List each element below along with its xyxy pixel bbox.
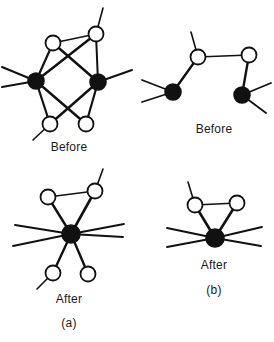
- caption-after-b: After: [201, 258, 227, 272]
- panel-after-a-node-t1-open: [41, 190, 56, 205]
- panel-before-a: [2, 8, 132, 140]
- caption-after-a: After: [56, 292, 82, 306]
- caption-before-b: Before: [196, 122, 233, 136]
- panel-before-b-node-b1-filled: [165, 84, 181, 100]
- caption-label-b: (b): [206, 283, 221, 297]
- panel-after-b-node-s2-open: [230, 196, 245, 211]
- graph-figure: BeforeBeforeAfter(a)After(b): [0, 0, 274, 342]
- graph-layer: [2, 8, 271, 289]
- panel-after-a: [13, 169, 124, 289]
- panel-before-a-node-u2-open: [89, 27, 104, 42]
- panel-before-b-node-b2-filled: [234, 87, 250, 103]
- panel-after-a-node-hub-filled: [62, 225, 80, 243]
- panel-before-a-node-u1-open: [46, 36, 61, 51]
- panel-before-a-node-d2-filled: [90, 74, 106, 90]
- panel-before-a-node-l2-open: [79, 117, 94, 132]
- panel-before-b-node-w2-open: [242, 48, 257, 63]
- panel-after-b-node-hub2-filled: [206, 229, 224, 247]
- graph-canvas: [0, 0, 274, 342]
- caption-label-a: (a): [61, 316, 76, 330]
- panel-before-a-node-l1-open: [43, 117, 58, 132]
- panel-before-b: [142, 32, 271, 113]
- caption-before-a: Before: [51, 140, 88, 154]
- panel-before-a-node-d1-filled: [28, 73, 44, 89]
- panel-after-a-node-p1-open: [46, 266, 61, 281]
- panel-before-b-node-w1-open: [191, 50, 206, 65]
- panel-after-a-node-t2-open: [88, 184, 103, 199]
- panel-after-b-node-s1-open: [188, 198, 203, 213]
- panel-after-b: [167, 182, 262, 247]
- panel-after-a-node-p2-open: [81, 267, 96, 282]
